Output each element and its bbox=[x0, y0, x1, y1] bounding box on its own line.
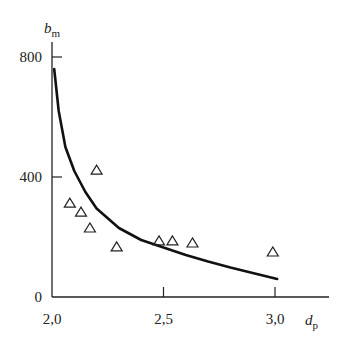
fitted-curve bbox=[54, 69, 277, 279]
data-points bbox=[64, 165, 278, 256]
y-tick-label: 400 bbox=[20, 169, 43, 185]
triangle-marker bbox=[267, 247, 278, 256]
y-axis-title: bm bbox=[44, 20, 61, 39]
x-tick-label: 2,0 bbox=[43, 311, 62, 327]
triangle-marker bbox=[84, 223, 95, 232]
fitted-curve-path bbox=[54, 69, 277, 279]
triangle-marker bbox=[64, 198, 75, 207]
y-tick-label: 0 bbox=[35, 289, 43, 305]
x-tick-label: 3,0 bbox=[266, 311, 285, 327]
x-axis-title: dp bbox=[305, 312, 319, 331]
x-tick-label: 2,5 bbox=[154, 311, 173, 327]
chart: 2,02,53,00400800bmdp bbox=[0, 0, 342, 343]
triangle-marker bbox=[91, 165, 102, 174]
triangle-marker bbox=[111, 242, 122, 251]
y-tick-label: 800 bbox=[20, 49, 43, 65]
triangle-marker bbox=[187, 238, 198, 247]
axis-labels: 2,02,53,00400800bmdp bbox=[20, 20, 319, 331]
triangle-marker bbox=[167, 236, 178, 245]
triangle-marker bbox=[75, 207, 86, 216]
